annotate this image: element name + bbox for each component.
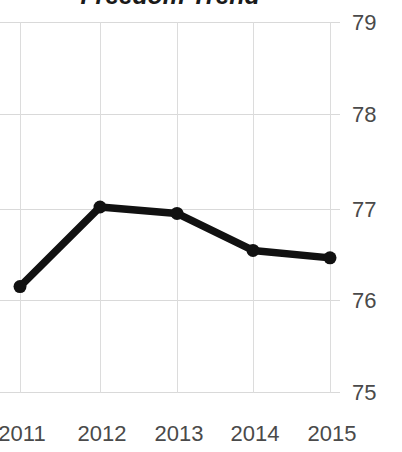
gridline-vertical-2013 xyxy=(177,22,178,393)
y-axis-tick-78: 78 xyxy=(352,104,398,126)
y-axis-tick-75: 75 xyxy=(352,382,398,404)
gridline-horizontal-76 xyxy=(0,300,340,301)
gridline-vertical-2014 xyxy=(253,22,254,393)
gridline-vertical-2012 xyxy=(100,22,101,393)
chart-figure: Freedom Trend 79 78 77 76 75 2011 2012 2… xyxy=(0,0,402,452)
y-axis-tick-79: 79 xyxy=(352,12,398,34)
gridline-vertical-2011 xyxy=(20,22,21,393)
gridline-horizontal-78 xyxy=(0,114,340,115)
x-axis-tick-2011: 2011 xyxy=(0,422,57,446)
y-axis-tick-76: 76 xyxy=(352,290,398,312)
x-axis-tick-2014: 2014 xyxy=(220,422,290,446)
gridline-vertical-2015 xyxy=(330,22,331,393)
gridline-horizontal-75 xyxy=(0,392,340,393)
x-axis-tick-2013: 2013 xyxy=(144,422,214,446)
x-axis-tick-2015: 2015 xyxy=(297,422,367,446)
data-series-line xyxy=(0,0,402,452)
plot-area: 79 78 77 76 75 2011 2012 2013 2014 2015 xyxy=(0,0,402,452)
y-axis-tick-77: 77 xyxy=(352,199,398,221)
gridline-horizontal-77 xyxy=(0,209,340,210)
x-axis-tick-2012: 2012 xyxy=(67,422,137,446)
gridline-horizontal-79 xyxy=(0,22,340,23)
